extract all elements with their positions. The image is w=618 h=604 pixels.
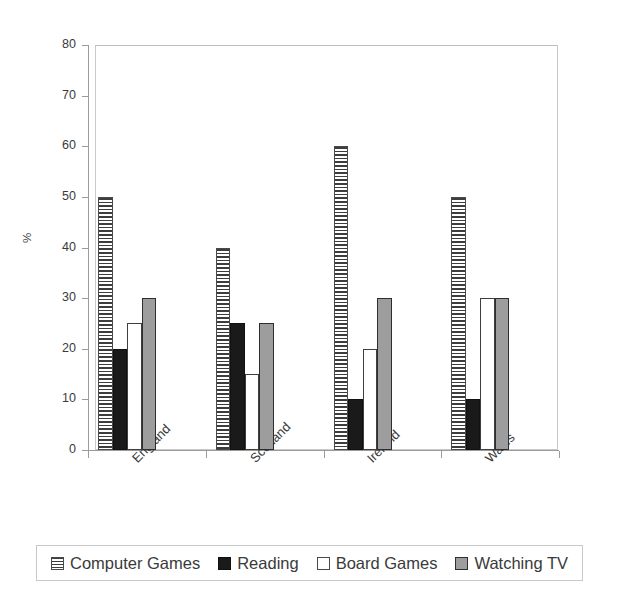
legend-label: Watching TV	[474, 555, 568, 572]
y-axis-tick-label: 60	[34, 139, 76, 152]
legend-label: Reading	[237, 555, 298, 572]
y-axis-tick-label: 50	[34, 190, 76, 203]
y-axis-tick-label: 10	[34, 392, 76, 405]
y-axis-tick-label: 0	[34, 443, 76, 456]
gray-swatch-icon	[455, 557, 468, 570]
chart-canvas: % 01020304050607080 EnglandScotlandIrela…	[0, 0, 618, 604]
bar	[259, 323, 274, 450]
y-axis-tick-label: 30	[34, 291, 76, 304]
x-axis-tick	[324, 451, 325, 458]
bar	[127, 323, 142, 450]
black-swatch-icon	[218, 557, 231, 570]
bar	[98, 197, 113, 450]
bar	[495, 298, 510, 450]
bar	[245, 374, 260, 450]
white-swatch-icon	[317, 557, 330, 570]
y-axis-title: %	[21, 233, 33, 243]
hatch-swatch-icon	[51, 557, 64, 570]
y-axis-tick-label: 80	[34, 38, 76, 51]
legend-label: Board Games	[336, 555, 438, 572]
bar	[451, 197, 466, 450]
y-axis-line	[88, 45, 89, 451]
bar	[230, 323, 245, 450]
x-axis-tick	[559, 451, 560, 458]
bar	[216, 248, 231, 451]
bar	[334, 146, 349, 450]
legend-item[interactable]: Reading	[218, 555, 298, 572]
legend-item[interactable]: Computer Games	[51, 555, 200, 572]
legend-item[interactable]: Board Games	[317, 555, 438, 572]
bar	[348, 399, 363, 450]
y-axis-tick-label: 40	[34, 241, 76, 254]
y-axis-tick-label: 70	[34, 89, 76, 102]
bar	[113, 349, 128, 450]
x-axis-tick	[88, 451, 89, 458]
y-axis-tick-label: 20	[34, 342, 76, 355]
bar	[142, 298, 157, 450]
x-axis-tick	[441, 451, 442, 458]
bar	[466, 399, 481, 450]
bar	[480, 298, 495, 450]
bar	[377, 298, 392, 450]
legend-item[interactable]: Watching TV	[455, 555, 568, 572]
x-axis-tick	[206, 451, 207, 458]
legend-label: Computer Games	[70, 555, 200, 572]
chart-legend: Computer GamesReadingBoard GamesWatching…	[36, 545, 583, 581]
bar	[363, 349, 378, 450]
